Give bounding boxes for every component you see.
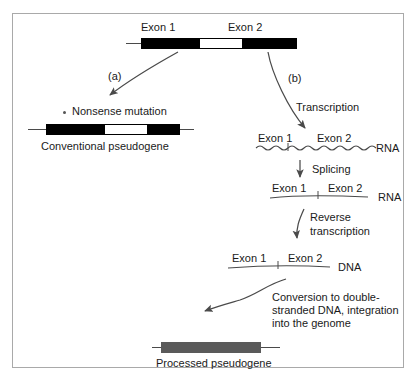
branch-a-arrow	[110, 52, 178, 95]
mature-mrna-strand	[270, 196, 368, 198]
integration-arrow	[205, 279, 286, 311]
branch-b-arrow	[268, 52, 305, 128]
connector-layer	[0, 0, 418, 382]
pseudogene-pathway-figure: Exon 1 Exon 2 (a) (b) Nonsense mutation …	[0, 0, 418, 382]
reverse-transcription-arrow	[297, 209, 304, 238]
pre-mrna-strand	[256, 146, 376, 150]
cdna-strand	[228, 266, 330, 268]
